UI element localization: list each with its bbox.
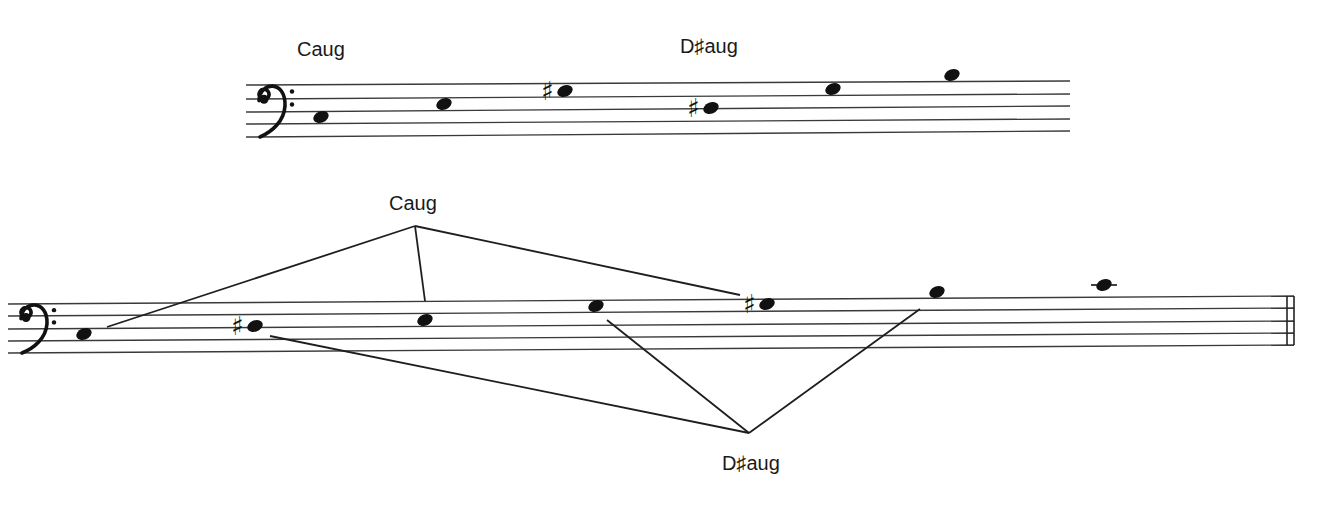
staff-line <box>8 308 1294 316</box>
staff-line <box>246 106 1070 112</box>
chord-label: D♯aug <box>722 452 780 474</box>
score-diagram: ♯♯CaugD♯aug ♯♯CaugD♯aug <box>0 0 1325 518</box>
chord-connector-line <box>107 226 415 327</box>
bottom-staff-system: ♯♯CaugD♯aug <box>8 192 1294 474</box>
staff-line <box>8 296 1294 304</box>
note-d-: ♯ <box>687 93 721 123</box>
chord-label: Caug <box>389 192 437 214</box>
top-staff-system: ♯♯CaugD♯aug <box>246 35 1070 137</box>
staff-line <box>246 94 1070 99</box>
chord-connector-line <box>749 309 920 433</box>
chord-connector-line <box>415 226 740 295</box>
notehead-icon <box>245 318 264 334</box>
staff-line <box>8 333 1294 341</box>
chord-label: D♯aug <box>680 35 738 57</box>
note-d-: ♯ <box>231 311 265 341</box>
note-g-: ♯ <box>743 289 777 319</box>
notehead-icon <box>942 67 961 83</box>
chord-label: Caug <box>297 38 345 60</box>
notehead-icon <box>757 296 776 312</box>
staff-line <box>8 321 1294 329</box>
staff-line <box>246 131 1070 137</box>
staff-line <box>246 119 1070 124</box>
note-g-: ♯ <box>541 76 575 106</box>
chord-connector-line <box>415 226 425 301</box>
sharp-icon: ♯ <box>743 289 756 319</box>
notehead-icon <box>701 100 720 116</box>
staff-line <box>246 81 1070 85</box>
staff-line <box>8 345 1294 353</box>
sharp-icon: ♯ <box>541 76 554 106</box>
note-c <box>1091 277 1117 293</box>
sharp-icon: ♯ <box>231 311 244 341</box>
note-a--b <box>942 67 961 83</box>
notehead-icon <box>1094 277 1113 293</box>
sharp-icon: ♯ <box>687 93 700 123</box>
